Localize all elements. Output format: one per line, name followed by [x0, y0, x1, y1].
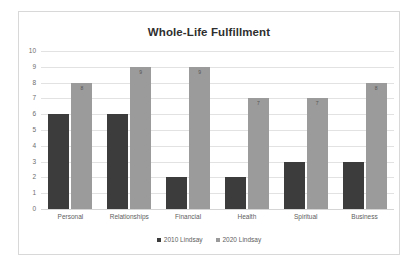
legend-label: 2010 Lindsay	[164, 237, 203, 244]
x-axis-category-label: Business	[321, 214, 408, 221]
bar-group: 7Health	[217, 51, 276, 209]
chart-frame: Whole-Life Fulfillment 109876543210 8Per…	[18, 11, 400, 255]
bar: 8	[71, 83, 92, 209]
y-axis-tick-label: 9	[32, 64, 36, 71]
y-axis-tick-label: 0	[32, 206, 36, 213]
bar	[48, 114, 69, 209]
bar-groups: 8Personal9Relationships9Financial7Health…	[41, 51, 394, 209]
bar-group: 8Personal	[41, 51, 100, 209]
bar: 7	[307, 98, 328, 209]
legend-item[interactable]: 2010 Lindsay	[157, 237, 203, 244]
bar: 8	[366, 83, 387, 209]
bar-group: 9Relationships	[100, 51, 159, 209]
bar: 9	[130, 67, 151, 209]
legend-label: 2020 Lindsay	[223, 237, 262, 244]
y-axis-tick-label: 4	[32, 143, 36, 150]
bar-group: 8Business	[335, 51, 394, 209]
legend-swatch-icon	[216, 238, 220, 242]
y-axis-tick-label: 8	[32, 79, 36, 86]
y-axis-tick-label: 10	[29, 48, 36, 55]
bar-value-label: 8	[366, 86, 387, 91]
y-axis-tick-label: 7	[32, 95, 36, 102]
gridline: 0	[41, 209, 394, 210]
bar-value-label: 7	[248, 101, 269, 106]
bar	[225, 177, 246, 209]
bar	[107, 114, 128, 209]
y-axis-tick-label: 5	[32, 127, 36, 134]
y-axis-tick-label: 2	[32, 174, 36, 181]
bar-value-label: 8	[71, 86, 92, 91]
bar-value-label: 9	[189, 70, 210, 75]
bar-group: 9Financial	[159, 51, 218, 209]
bar	[343, 162, 364, 209]
plot-area: 109876543210 8Personal9Relationships9Fin…	[41, 51, 394, 209]
y-axis-tick-label: 3	[32, 158, 36, 165]
bar: 9	[189, 67, 210, 209]
y-axis-tick-label: 6	[32, 111, 36, 118]
chart-legend: 2010 Lindsay2020 Lindsay	[19, 237, 399, 244]
bar-value-label: 9	[130, 70, 151, 75]
bar-group: 7Spiritual	[276, 51, 335, 209]
bar	[166, 177, 187, 209]
chart-title: Whole-Life Fulfillment	[19, 26, 399, 38]
y-axis-tick-label: 1	[32, 190, 36, 197]
legend-swatch-icon	[157, 238, 161, 242]
bar: 7	[248, 98, 269, 209]
bar-value-label: 7	[307, 101, 328, 106]
bar	[284, 162, 305, 209]
legend-item[interactable]: 2020 Lindsay	[216, 237, 262, 244]
